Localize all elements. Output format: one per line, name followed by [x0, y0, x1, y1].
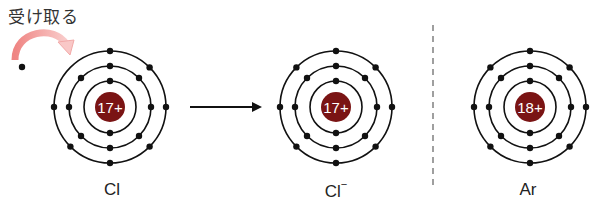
electron	[527, 63, 533, 69]
curved-transfer-arrow-icon	[15, 33, 74, 60]
nucleus-charge-label: 18+	[517, 99, 543, 116]
electron	[568, 104, 574, 110]
electron	[107, 78, 113, 84]
electron	[277, 104, 283, 110]
nucleus-charge-label: 17+	[323, 99, 349, 116]
electron	[471, 104, 477, 110]
electron	[107, 130, 113, 136]
electron	[146, 143, 152, 149]
electron	[362, 133, 368, 139]
electron	[498, 75, 504, 81]
diagram-canvas: 17+17+18+	[0, 0, 591, 206]
electron	[292, 104, 298, 110]
electron	[136, 75, 142, 81]
electron	[51, 104, 57, 110]
electron	[304, 133, 310, 139]
electron	[498, 133, 504, 139]
electron	[304, 75, 310, 81]
electron	[146, 64, 152, 70]
electron	[333, 130, 339, 136]
electron	[486, 104, 492, 110]
electron	[136, 133, 142, 139]
electron	[333, 78, 339, 84]
electron	[566, 64, 572, 70]
electron	[333, 145, 339, 151]
electron	[372, 64, 378, 70]
electron	[556, 133, 562, 139]
electron	[487, 64, 493, 70]
electron	[527, 145, 533, 151]
nucleus-charge-label: 17+	[97, 99, 123, 116]
charge-superscript: −	[341, 178, 347, 190]
electron	[67, 143, 73, 149]
electron	[293, 143, 299, 149]
electron	[527, 48, 533, 54]
electron	[362, 75, 368, 81]
electron	[527, 130, 533, 136]
electron	[107, 48, 113, 54]
electron	[566, 143, 572, 149]
electron	[163, 104, 169, 110]
electron	[333, 63, 339, 69]
atom-ar: 18+	[471, 48, 589, 166]
electron	[333, 48, 339, 54]
electron	[583, 104, 589, 110]
electron	[527, 78, 533, 84]
electron	[487, 143, 493, 149]
electron	[148, 104, 154, 110]
atom-cl-ion: 17+	[277, 48, 395, 166]
electron	[333, 160, 339, 166]
electron	[556, 75, 562, 81]
electron	[107, 160, 113, 166]
free-electron	[19, 64, 25, 70]
electron	[389, 104, 395, 110]
atom-cl: 17+	[51, 48, 169, 166]
electron	[527, 160, 533, 166]
label-cl-ion: Cl−	[325, 180, 348, 202]
electron	[66, 104, 72, 110]
electron	[78, 133, 84, 139]
electron	[372, 143, 378, 149]
electron	[78, 75, 84, 81]
label-cl: Cl	[104, 180, 120, 200]
electron	[107, 145, 113, 151]
label-ar: Ar	[520, 180, 537, 200]
electron	[293, 64, 299, 70]
electron	[374, 104, 380, 110]
electron	[107, 63, 113, 69]
